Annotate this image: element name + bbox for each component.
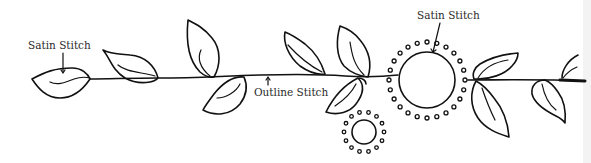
satin-stitch-right-label-group: Satin Stitch [417, 9, 480, 52]
leaf-11 [562, 55, 578, 78]
outline-stitch-label-group: Outline Stitch [254, 77, 328, 98]
leaf-3 [187, 20, 219, 77]
vine-stem [90, 74, 585, 81]
outline-stitch-label: Outline Stitch [254, 86, 328, 98]
satin-stitch-left-label-group: Satin Stitch [28, 39, 91, 73]
small-flower-dots [342, 111, 386, 154]
leaf-10 [532, 80, 565, 123]
leaf-7 [326, 78, 366, 114]
vine-stem-end [560, 80, 585, 81]
leaf-8 [473, 53, 518, 79]
small-flower-center [352, 120, 376, 144]
diagram-drawing: Outline Stitch [0, 0, 591, 163]
leaf-4 [203, 77, 246, 114]
pointer-line [433, 23, 440, 52]
leaf-6 [337, 26, 370, 77]
leaf-5 [285, 32, 325, 74]
large-flower [387, 40, 467, 120]
leaf-1 [32, 68, 90, 98]
large-flower-center [399, 52, 455, 108]
small-flower [342, 111, 386, 154]
embroidery-diagram: Outline Stitch [0, 0, 591, 163]
leaf-9 [472, 81, 509, 137]
satin-stitch-left-label: Satin Stitch [28, 39, 91, 51]
satin-stitch-right-label: Satin Stitch [417, 9, 480, 21]
